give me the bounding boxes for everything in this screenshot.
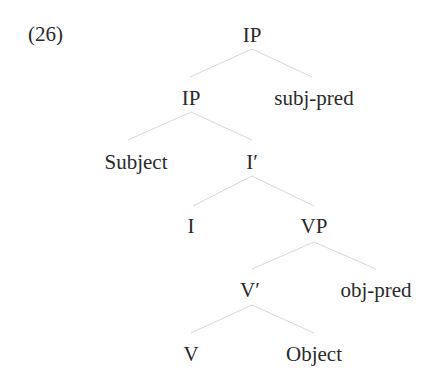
node-subject: Subject — [105, 150, 168, 174]
node-obj-pred: obj-pred — [340, 278, 411, 302]
node-v-head: V — [183, 342, 198, 366]
node-i-bar: I′ — [246, 150, 258, 174]
node-vp: VP — [301, 214, 328, 238]
edge-i-bar-vp — [252, 176, 314, 206]
node-v-bar: V′ — [240, 278, 260, 302]
edge-ip-inner-i-bar — [191, 112, 252, 140]
node-i-head: I — [188, 214, 195, 238]
edge-i-bar-i-head — [193, 176, 252, 206]
tree-edges — [0, 0, 444, 381]
edge-ip-root-ip-inner — [190, 49, 252, 77]
edge-ip-inner-subject — [128, 112, 191, 140]
node-ip-inner: IP — [182, 86, 201, 110]
node-object: Object — [286, 342, 342, 366]
edge-vp-v-bar — [252, 242, 314, 269]
edge-ip-root-subj-pred — [252, 49, 312, 77]
edge-v-bar-v-head — [191, 305, 252, 333]
node-subj-pred: subj-pred — [274, 86, 353, 110]
edge-v-bar-object — [252, 305, 314, 333]
node-ip-root: IP — [243, 23, 262, 47]
edge-vp-obj-pred — [314, 242, 376, 269]
